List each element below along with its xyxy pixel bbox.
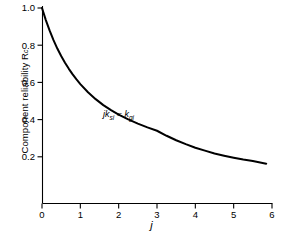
annotation-subscript-2: gi [129,114,134,121]
curve-annotation: jksi = kgi [103,109,134,121]
x-axis-label: j [0,219,283,231]
plot-group: 0.20.40.60.81.00123456 [22,2,275,220]
y-axis-label: Component reliability Rc [19,12,30,192]
annotation-part-2: = k [114,109,129,119]
chart-canvas: 0.20.40.60.81.00123456 [0,0,283,241]
chart-figure: 0.20.40.60.81.00123456 Component reliabi… [0,0,283,241]
y-axis-label-subscript: c [22,50,29,54]
data-series-line [42,8,266,164]
